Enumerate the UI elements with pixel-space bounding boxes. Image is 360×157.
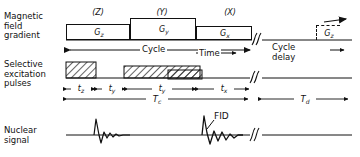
time-label: Time [198, 49, 221, 59]
break-symbol-signal [250, 128, 259, 141]
figure-canvas: Magnetic field gradient Selective excita… [0, 0, 360, 157]
cycle-delay-label: Cycle delay [272, 43, 295, 62]
total-label-td: Td [294, 94, 316, 105]
fid-waveform-1 [94, 119, 130, 143]
interval-label-ty2: ty [152, 84, 172, 94]
cycle-label: Cycle [140, 45, 167, 55]
fid-leader-line [207, 120, 214, 129]
interval-label-tz: tz [71, 84, 91, 94]
interval-label-tx: tx [214, 84, 234, 94]
break-symbol-gradient [252, 33, 261, 45]
interval-label-ty1: ty [102, 84, 122, 94]
fid-annotation: FID [214, 112, 229, 122]
diagram-vector-layer [0, 0, 360, 157]
repeat-arrow [324, 19, 346, 22]
break-symbol-excitation [250, 71, 259, 83]
excitation-pulse-z [66, 62, 96, 78]
total-label-tc: Tc [146, 94, 168, 105]
